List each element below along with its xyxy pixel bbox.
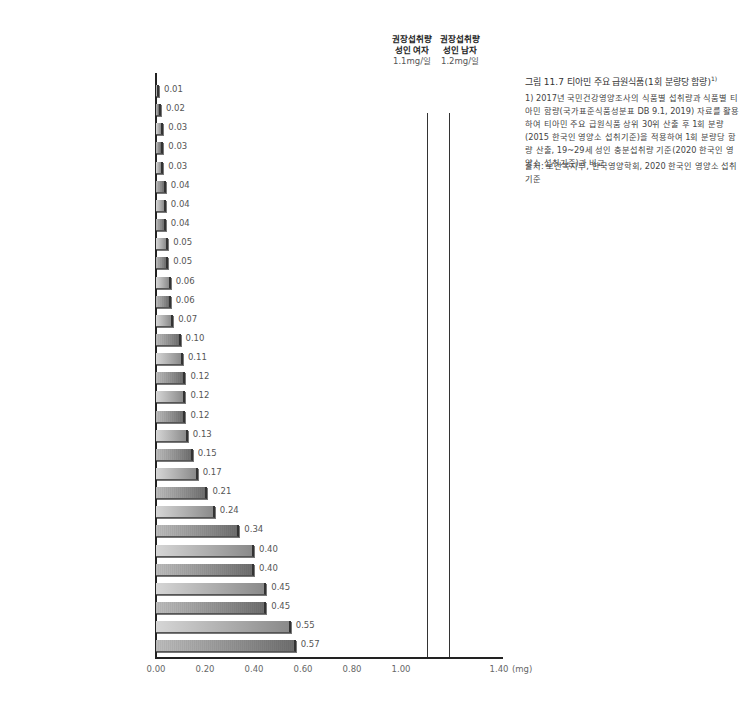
bar: [156, 353, 183, 365]
bar: [156, 564, 254, 576]
bar: [156, 391, 185, 403]
bar: [156, 85, 159, 97]
value-label: 0.57: [301, 639, 320, 649]
bar: [156, 449, 193, 461]
figure-title-text: 그림 11.7 티아민 주요 급원식품(1회 분량당 함량): [525, 77, 711, 87]
bar: [156, 296, 171, 308]
ref-male-line1: 권장섭취량: [430, 34, 490, 45]
bar-row: 보리, 90g0.21: [0, 483, 520, 502]
ref-male-line2: 성인 남자: [430, 45, 490, 56]
value-label: 0.34: [244, 524, 263, 534]
source-text: 출처: 보건복지부, 한국영양학회, 2020 한국인 영양소 섭취기준: [525, 160, 740, 186]
bar-row: 배추김치, 40g0.03: [0, 158, 520, 177]
bar-row: 현미, 90g0.24: [0, 502, 520, 521]
value-label: 0.05: [173, 256, 192, 266]
bar-row: 옥수수, 70g0.34: [0, 521, 520, 540]
value-label: 0.06: [176, 295, 195, 305]
bar-row: 소고기(살코기), 60g0.03: [0, 138, 520, 157]
bar-row: 간장, 5g0.01: [0, 81, 520, 100]
figure-title: 그림 11.7 티아민 주요 급원식품(1회 분량당 함량)1): [525, 72, 740, 89]
bar: [156, 525, 239, 537]
footnote-text: 1) 2017년 국민건강영양조사의 식품별 섭취량과 식품별 티아민 함량(국…: [525, 92, 740, 170]
value-label: 0.06: [176, 276, 195, 286]
reference-label-male: 권장섭취량 성인 남자 1.2mg/일: [430, 34, 490, 67]
value-label: 0.40: [259, 544, 278, 554]
value-label: 0.12: [190, 371, 209, 381]
value-label: 0.15: [198, 448, 217, 458]
x-axis-unit: (mg): [512, 664, 532, 674]
bar: [156, 277, 171, 289]
value-label: 0.11: [188, 352, 207, 362]
bar-row: 밀가루, 30g0.05: [0, 253, 520, 272]
bar: [156, 257, 168, 269]
x-tick-label: 0.60: [294, 664, 313, 674]
bar: [156, 162, 163, 174]
bar: [156, 372, 185, 384]
value-label: 0.03: [168, 141, 187, 151]
ref-male-value: 1.2mg/일: [430, 56, 490, 67]
bar-row: 샌드위치/햄버거/피자, 150g0.45: [0, 598, 520, 617]
bar-row: 돼지 부산물(간), 45g0.12: [0, 368, 520, 387]
bar-row: 다시마 육수, 200g0.10: [0, 330, 520, 349]
x-tick-label: 1.40: [490, 664, 509, 674]
x-tick-label: 1.00: [392, 664, 411, 674]
bar: [156, 238, 168, 250]
value-label: 0.21: [212, 486, 231, 496]
bar: [156, 315, 173, 327]
x-axis: [155, 657, 503, 659]
x-tick-label: 0.00: [147, 664, 166, 674]
bar-row: 만두, 100g0.45: [0, 579, 520, 598]
bar: [156, 468, 198, 480]
bar-row: 양파, 70g0.02: [0, 100, 520, 119]
bar-row: 달걀, 60g0.05: [0, 234, 520, 253]
bar-row: 무, 70g0.04: [0, 196, 520, 215]
value-label: 0.05: [173, 237, 192, 247]
value-label: 0.17: [203, 467, 222, 477]
value-label: 0.04: [171, 180, 190, 190]
value-label: 0.40: [259, 563, 278, 573]
value-label: 0.02: [166, 103, 185, 113]
footnote-mark: 1): [711, 75, 717, 82]
bar: [156, 545, 254, 557]
value-label: 0.45: [271, 582, 290, 592]
bar-row: 순대, 100g0.57: [0, 636, 520, 655]
bar-row: 고구마, 70g0.06: [0, 292, 520, 311]
bar: [156, 219, 166, 231]
value-label: 0.10: [186, 333, 205, 343]
bar-row: 닭고기, 60g0.12: [0, 407, 520, 426]
value-label: 0.03: [168, 161, 187, 171]
bar-row: 우유, 200g0.04: [0, 215, 520, 234]
bar: [156, 104, 161, 116]
value-label: 0.24: [220, 505, 239, 515]
bar: [156, 640, 296, 652]
bar-row: 돼지고기(살코기), 60g0.40: [0, 560, 520, 579]
x-tick-label: 0.80: [343, 664, 362, 674]
x-tick-label: 0.20: [196, 664, 215, 674]
x-tick-label: 0.40: [245, 664, 264, 674]
bar-row: 빵, 100g0.17: [0, 464, 520, 483]
bar: [156, 621, 291, 633]
bar-row: 된장, 10g0.06: [0, 273, 520, 292]
bar: [156, 181, 166, 193]
bar: [156, 142, 163, 154]
bar-row: 시금치, 70g0.11: [0, 349, 520, 368]
bar-row: 국수, 210g0.12: [0, 387, 520, 406]
value-label: 0.12: [190, 410, 209, 420]
bar: [156, 200, 166, 212]
bar-row: 햄/소시지/베이컨, 30g0.15: [0, 445, 520, 464]
value-label: 0.55: [296, 620, 315, 630]
value-label: 0.13: [193, 429, 212, 439]
value-label: 0.45: [271, 601, 290, 611]
value-label: 0.07: [178, 314, 197, 324]
bar-row: 백미, 90g0.07: [0, 311, 520, 330]
bar-row: 시리얼, 30g0.55: [0, 617, 520, 636]
bar: [156, 411, 185, 423]
value-label: 0.03: [168, 122, 187, 132]
value-label: 0.12: [190, 390, 209, 400]
bar: [156, 123, 163, 135]
bar-row: 고추장, 5g0.03: [0, 119, 520, 138]
value-label: 0.04: [171, 218, 190, 228]
bar-row: 과자, 30g0.04: [0, 177, 520, 196]
bar: [156, 583, 266, 595]
thiamin-bar-chart: 권장섭취량 성인 여자 1.1mg/일 권장섭취량 성인 남자 1.2mg/일 …: [0, 0, 748, 711]
